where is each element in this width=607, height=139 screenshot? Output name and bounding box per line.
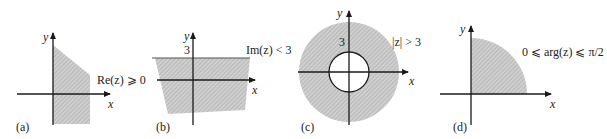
panel-tag: (a): [16, 120, 29, 134]
tick-label-3: 3: [339, 35, 345, 49]
shaded-region-right-half-plane: [53, 45, 90, 124]
panel-tag: (d): [453, 120, 467, 134]
y-axis-label: y: [183, 29, 190, 43]
condition-label: |z| > 3: [392, 35, 421, 49]
y-axis-label: y: [336, 6, 343, 20]
condition-label: Im(z) < 3: [246, 43, 291, 57]
shaded-region-below-line: [155, 58, 250, 114]
panel-a: y x Re(z) ⩾ 0 (a): [16, 30, 146, 134]
panel-b: y 3 x Im(z) < 3 (b): [152, 29, 291, 134]
panel-tag: (c): [301, 120, 314, 134]
y-axis-label: y: [42, 30, 49, 44]
panel-c: y 3 x |z| > 3 (c): [298, 6, 421, 134]
panel-d: y x 0 ⩽ arg(z) ⩽ π/2 (d): [440, 22, 604, 134]
condition-label: 0 ⩽ arg(z) ⩽ π/2: [522, 45, 604, 59]
shaded-region-first-quadrant-sector: [471, 38, 527, 94]
x-axis-label: x: [408, 74, 415, 88]
x-axis-label: x: [107, 97, 114, 111]
condition-label: Re(z) ⩾ 0: [97, 73, 146, 87]
x-axis-label: x: [251, 83, 258, 97]
y-axis-label: y: [459, 22, 466, 36]
complex-regions-figure: y x Re(z) ⩾ 0 (a) y 3 x Im(z) < 3 (b) y …: [0, 0, 607, 139]
panel-tag: (b): [156, 120, 170, 134]
tick-label-3: 3: [184, 43, 190, 57]
x-axis-label: x: [549, 97, 556, 111]
